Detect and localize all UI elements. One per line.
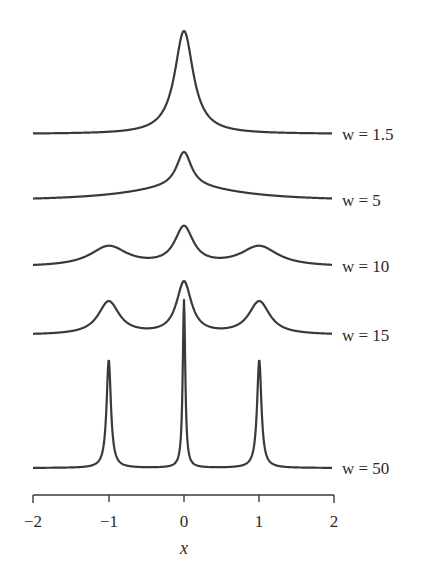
curve-w-5 [33,152,332,199]
x-axis-label: x [179,538,188,558]
x-axis: −2 −1 0 1 2 x [24,495,338,558]
curve-w-10 [33,226,332,265]
x-tick-label: −2 [24,512,42,531]
x-tick-label: 2 [330,512,339,531]
stacked-spectra-chart: w = 1.5 w = 5 w = 10 w = 15 w = 50 −2 −1… [0,0,425,584]
label-w-10: w = 10 [342,257,389,276]
label-w-1.5: w = 1.5 [342,125,394,144]
x-tick-label: 0 [180,512,189,531]
x-tick-label: −1 [100,512,118,531]
curves-group [33,31,332,468]
curve-w-1.5 [33,31,332,133]
x-tick-label: 1 [255,512,264,531]
label-w-5: w = 5 [342,191,381,210]
curve-w-50 [33,300,332,468]
label-w-15: w = 15 [342,326,389,345]
label-w-50: w = 50 [342,459,389,478]
